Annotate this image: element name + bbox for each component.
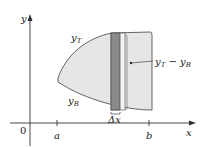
height-label: yT − yB [154, 56, 191, 69]
bottom-curve-label: yB [67, 95, 79, 108]
tick-label-a: a [54, 130, 60, 141]
y-axis-arrow-icon [28, 14, 33, 21]
x-axis-arrow-icon [189, 121, 196, 126]
x-axis-label: x [186, 127, 192, 138]
tick-label-b: b [146, 130, 152, 141]
approximating-rectangle [111, 33, 120, 110]
diagram-canvas: y x 0 a b yT yB yT − yB Δx [0, 0, 201, 147]
y-axis-label: y [20, 13, 27, 24]
area-between-curves-diagram: y x 0 a b yT yB yT − yB Δx [0, 0, 201, 147]
origin-label: 0 [20, 125, 26, 136]
delta-x-label: Δx [107, 114, 121, 125]
top-curve-label: yT [70, 32, 83, 45]
